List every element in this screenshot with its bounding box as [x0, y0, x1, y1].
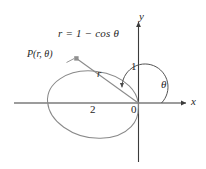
- radius-segment: [77, 59, 139, 104]
- point-p-marker: [74, 56, 78, 60]
- x-axis-label: x: [191, 96, 196, 107]
- cardioid-figure: r = 1 − cos θ P(r, θ) r 1 2 0 θ x y: [0, 0, 206, 169]
- origin-label: 0: [131, 104, 137, 115]
- y-tick-one-label: 1: [131, 61, 137, 72]
- curve-equation-label: r = 1 − cos θ: [58, 28, 119, 39]
- point-label-leader: [67, 59, 75, 63]
- radius-label: r: [97, 68, 101, 79]
- figure-canvas: [0, 0, 206, 169]
- x-extent-two-label: 2: [90, 104, 96, 115]
- y-axis-label: y: [139, 11, 144, 22]
- point-p-label: P(r, θ): [27, 49, 52, 59]
- theta-label: θ: [161, 79, 166, 90]
